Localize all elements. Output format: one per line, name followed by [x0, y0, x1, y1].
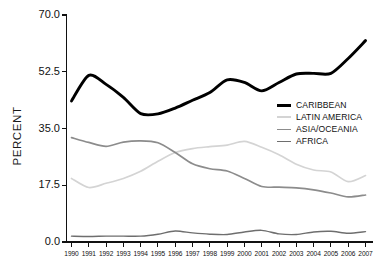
- legend-label-latin-america: LATIN AMERICA: [296, 113, 362, 122]
- legend-item-africa: AFRICA: [277, 136, 389, 148]
- legend-swatch-africa: [277, 141, 291, 142]
- chart-legend: CARIBBEAN LATIN AMERICA ASIA/OCEANIA AFR…: [277, 99, 389, 148]
- legend-item-asia-oceania: ASIA/OCEANIA: [277, 123, 389, 135]
- legend-label-africa: AFRICA: [296, 137, 328, 146]
- legend-item-latin-america: LATIN AMERICA: [277, 111, 389, 123]
- line-chart: 0.017.535.052.570.0 19901991199219931994…: [0, 0, 389, 273]
- x-tick-label: 2007: [356, 250, 376, 257]
- legend-label-caribbean: CARIBBEAN: [296, 101, 347, 110]
- y-axis-title: PERCENT: [11, 91, 23, 181]
- y-axis-title-wrapper: PERCENT: [6, 96, 28, 186]
- legend-swatch-caribbean: [277, 104, 291, 107]
- legend-swatch-latin-america: [277, 116, 291, 118]
- legend-swatch-asia-oceania: [277, 129, 291, 131]
- legend-item-caribbean: CARIBBEAN: [277, 99, 389, 111]
- legend-label-asia-oceania: ASIA/OCEANIA: [296, 125, 358, 134]
